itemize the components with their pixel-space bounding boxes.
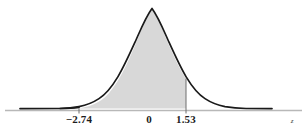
shaded-area-region xyxy=(79,10,186,109)
normal-curve-figure: −2.74 0 1.53 z xyxy=(0,0,306,132)
x-axis-label: z xyxy=(291,118,294,125)
tick-label-center: 0 xyxy=(146,114,152,125)
tick-label-lower: −2.74 xyxy=(66,114,93,125)
tick-label-upper: 1.53 xyxy=(176,114,196,125)
distribution-plot xyxy=(0,0,306,132)
